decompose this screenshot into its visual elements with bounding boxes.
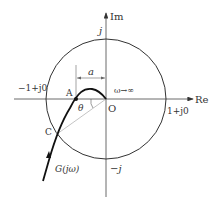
label-A: A: [65, 88, 73, 98]
label-theta: θ: [78, 103, 84, 113]
label-gjw: G(jω): [55, 164, 80, 174]
nyquist-diagram: Im Re j −j −1+j0 1+j0 ω→∞ a A O C θ G(jω…: [0, 0, 215, 207]
label-O: O: [108, 103, 116, 114]
theta-arc: [91, 99, 93, 108]
label-omega-inf: ω→∞: [114, 86, 134, 95]
imag-axis-label: Im: [110, 11, 124, 22]
label-C: C: [45, 127, 52, 137]
point-a: [74, 97, 78, 101]
real-axis-label: Re: [195, 94, 209, 105]
label-j: j: [97, 25, 102, 36]
label-neg-j: −j: [110, 163, 121, 174]
label-plus-one: 1+j0: [167, 106, 189, 116]
label-a: a: [88, 66, 94, 77]
label-minus-one: −1+j0: [18, 83, 48, 93]
